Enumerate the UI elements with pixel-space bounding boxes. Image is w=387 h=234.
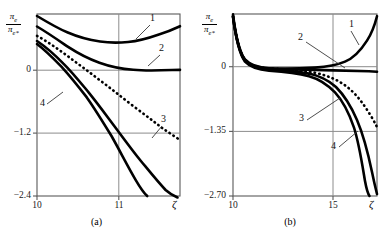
curve-label-b-4: 4 xyxy=(331,140,336,151)
panel-caption-a: (a) xyxy=(0,216,193,227)
ytick-label-a-2: −2.4 xyxy=(2,190,31,200)
yticks-a xyxy=(33,70,37,196)
x-axis-label-a: ζ xyxy=(172,198,176,210)
yticks-b xyxy=(229,67,233,196)
ytick-label-b-1: −1.35 xyxy=(193,125,226,135)
x-axis-label-b: ζ xyxy=(369,198,373,210)
chart-panel-b: πe πe* xyxy=(193,0,387,234)
curve-label-b-1: 1 xyxy=(349,18,354,29)
panel-caption-b: (b) xyxy=(193,216,387,227)
chart-panel-a: πe πe* xyxy=(0,0,193,234)
xtick-label-b-0: 10 xyxy=(219,200,247,210)
figure-root: πe πe* xyxy=(0,0,387,234)
xtick-label-a-1: 11 xyxy=(105,200,133,210)
curve-label-a-3: 3 xyxy=(161,113,166,124)
curve-label-a-4: 4 xyxy=(40,97,45,108)
ytick-label-b-2: −2.70 xyxy=(193,190,226,200)
curve-label-b-3: 3 xyxy=(299,112,304,123)
xtick-label-a-0: 10 xyxy=(23,200,51,210)
curve-label-a-2: 2 xyxy=(159,42,164,53)
ytick-label-a-0: 0 xyxy=(2,64,31,74)
xticks-b xyxy=(233,196,333,200)
ytick-label-a-1: −1.2 xyxy=(2,127,31,137)
plot-frame-b xyxy=(233,14,377,196)
curve-label-a-1: 1 xyxy=(150,12,155,23)
curve-label-b-2: 2 xyxy=(298,31,303,42)
xtick-label-b-1: 15 xyxy=(319,200,347,210)
ytick-label-b-0: 0 xyxy=(193,61,226,71)
